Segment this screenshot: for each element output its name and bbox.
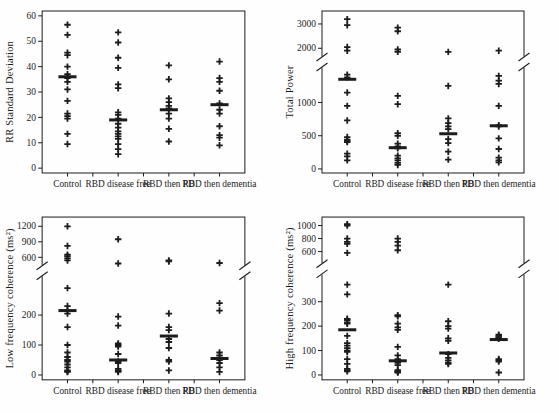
data-point bbox=[64, 285, 70, 291]
y-axis-label: RR Standard Deviation bbox=[4, 40, 15, 143]
y-tick-label: 0 bbox=[31, 369, 36, 380]
category-label: Control bbox=[53, 386, 82, 396]
data-point bbox=[344, 47, 350, 53]
data-point bbox=[496, 146, 502, 152]
data-point bbox=[496, 81, 502, 87]
figure-root: 0102030405060ControlRBD disease freeRBD … bbox=[0, 0, 559, 413]
y-tick-label: 2000 bbox=[297, 43, 316, 53]
data-point bbox=[115, 151, 121, 157]
data-point bbox=[344, 117, 350, 123]
data-point bbox=[496, 47, 502, 53]
category-label: RBD then dementia bbox=[462, 386, 536, 396]
y-tick-label: 40 bbox=[27, 62, 37, 72]
high-frequency-coherence-plot: 01002003006008001000ControlRBD disease f… bbox=[280, 206, 559, 413]
data-point bbox=[216, 369, 222, 375]
data-point bbox=[445, 83, 451, 89]
low-frequency-coherence-plot: 01002006009001200ControlRBD disease free… bbox=[0, 206, 280, 413]
panel-low-frequency-coherence: 01002006009001200ControlRBD disease free… bbox=[0, 206, 280, 413]
data-point bbox=[216, 58, 222, 64]
y-tick-label: 1000 bbox=[297, 221, 316, 231]
data-point bbox=[166, 76, 172, 82]
data-point bbox=[445, 361, 451, 367]
data-point bbox=[115, 313, 121, 319]
y-tick-label: 0 bbox=[311, 370, 316, 380]
y-tick-label: 100 bbox=[22, 339, 37, 350]
panel-high-frequency-coherence: 01002003006008001000ControlRBD disease f… bbox=[280, 206, 559, 413]
data-point bbox=[445, 140, 451, 146]
data-point bbox=[344, 89, 350, 95]
data-point bbox=[64, 342, 70, 348]
category-label: Control bbox=[333, 386, 362, 396]
data-point bbox=[166, 138, 172, 144]
y-tick-label: 1200 bbox=[17, 221, 36, 232]
data-point bbox=[395, 247, 401, 253]
data-point bbox=[64, 324, 70, 330]
data-point bbox=[64, 131, 70, 137]
y-tick-label: 60 bbox=[27, 11, 37, 21]
category-label: RBD then dementia bbox=[462, 179, 536, 189]
data-point bbox=[115, 55, 121, 61]
data-point bbox=[344, 157, 350, 163]
data-point bbox=[496, 135, 502, 141]
data-point bbox=[166, 258, 172, 264]
data-point bbox=[166, 367, 172, 373]
data-point bbox=[64, 22, 70, 28]
data-point bbox=[166, 115, 172, 121]
y-axis-label: High frequency coherence (ms²) bbox=[284, 227, 296, 370]
data-point bbox=[216, 307, 222, 313]
category-label: Control bbox=[53, 179, 82, 189]
data-point bbox=[115, 39, 121, 45]
data-point bbox=[64, 79, 70, 85]
data-point bbox=[445, 156, 451, 162]
panel-rr-standard-deviation: 0102030405060ControlRBD disease freeRBD … bbox=[0, 0, 280, 206]
data-point bbox=[216, 88, 222, 94]
data-point bbox=[115, 29, 121, 35]
plot-frame bbox=[322, 11, 524, 173]
data-point bbox=[344, 22, 350, 28]
data-point bbox=[445, 281, 451, 287]
data-point bbox=[166, 126, 172, 132]
y-tick-label: 600 bbox=[302, 247, 316, 257]
y-tick-label: 50 bbox=[27, 36, 37, 46]
data-point bbox=[395, 93, 401, 99]
category-label: Control bbox=[333, 179, 362, 189]
y-tick-label: 100 bbox=[302, 346, 316, 356]
data-point bbox=[344, 281, 350, 287]
y-tick-label: 20 bbox=[27, 113, 37, 123]
data-point bbox=[216, 300, 222, 306]
data-point bbox=[64, 98, 70, 104]
data-point bbox=[395, 313, 401, 319]
data-point bbox=[64, 223, 70, 229]
data-point bbox=[115, 65, 121, 71]
data-point bbox=[344, 103, 350, 109]
data-point bbox=[166, 345, 172, 351]
data-point bbox=[344, 222, 350, 228]
data-point bbox=[216, 123, 222, 129]
total-power-plot: 0500100020003000ControlRBD disease freeR… bbox=[280, 0, 559, 206]
data-point bbox=[64, 86, 70, 92]
data-point bbox=[344, 250, 350, 256]
y-tick-label: 600 bbox=[22, 252, 37, 263]
y-tick-label: 1000 bbox=[297, 98, 316, 108]
category-label: RBD disease free bbox=[365, 386, 430, 396]
y-tick-label: 200 bbox=[302, 321, 316, 331]
data-point bbox=[64, 243, 70, 249]
data-point bbox=[216, 260, 222, 266]
data-point bbox=[115, 260, 121, 266]
y-tick-label: 800 bbox=[302, 234, 316, 244]
data-point bbox=[64, 63, 70, 69]
y-tick-label: 500 bbox=[302, 131, 317, 141]
data-point bbox=[166, 62, 172, 68]
data-point bbox=[115, 351, 121, 357]
panel-total-power: 0500100020003000ControlRBD disease freeR… bbox=[280, 0, 559, 206]
data-point bbox=[64, 32, 70, 38]
plot-frame bbox=[322, 217, 524, 380]
data-point bbox=[115, 236, 121, 242]
data-point bbox=[395, 28, 401, 34]
y-tick-label: 10 bbox=[27, 138, 37, 148]
y-axis-label: Low frequency coherence (ms²) bbox=[4, 228, 16, 369]
y-tick-label: 200 bbox=[22, 309, 37, 320]
category-label: RBD disease free bbox=[86, 386, 151, 396]
rr-standard-deviation-plot: 0102030405060ControlRBD disease freeRBD … bbox=[0, 0, 280, 206]
plot-frame bbox=[42, 217, 245, 380]
